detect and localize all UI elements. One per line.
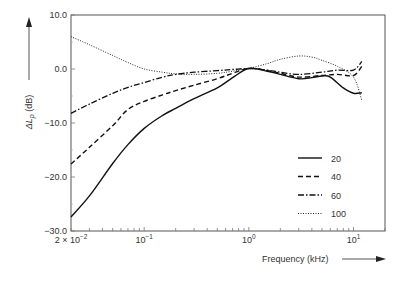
x-axis-title: Frequency (kHz)	[262, 254, 329, 264]
y-label-suffix: (dB)	[24, 95, 34, 115]
legend-label: 60	[331, 191, 341, 201]
x-tick-label: 101	[347, 233, 361, 245]
y-axis: 10.00.0−10.0−20.0−30.0	[44, 10, 75, 236]
x-tick-base: 10	[242, 235, 252, 245]
x-axis-arrow-icon	[376, 256, 386, 262]
x-tick-base: 10	[347, 235, 357, 245]
svg-text:ΔLp (dB): ΔLp (dB)	[24, 95, 36, 130]
x-tick-exponent: −2	[80, 233, 88, 240]
y-tick-label: 10.0	[49, 10, 67, 20]
chart: 10.00.0−10.0−20.0−30.0 2 × 10−210−110010…	[0, 0, 404, 282]
x-axis: 2 × 10−210−1100101	[55, 227, 385, 245]
x-tick-label: 10−1	[135, 233, 153, 245]
series-line-60	[71, 61, 362, 113]
x-tick-label: 100	[242, 233, 256, 245]
x-tick-base: 10	[135, 235, 145, 245]
x-tick-exponent: 0	[252, 233, 256, 240]
legend: 204060100	[298, 154, 346, 220]
legend-label: 40	[331, 172, 341, 182]
y-tick-label: −10.0	[44, 118, 67, 128]
legend-label: 100	[331, 209, 346, 219]
series-group	[71, 37, 362, 217]
legend-label: 20	[331, 154, 341, 164]
y-tick-label: −20.0	[44, 172, 67, 182]
x-tick-base: 2 × 10	[55, 235, 80, 245]
series-line-100	[71, 37, 362, 101]
x-tick-label: 2 × 10−2	[55, 233, 88, 245]
y-tick-label: 0.0	[54, 64, 67, 74]
y-axis-arrow-icon	[26, 17, 32, 27]
y-axis-title: ΔLp (dB)	[24, 95, 36, 130]
y-label-prefix: ΔL	[24, 118, 34, 130]
x-tick-exponent: −1	[145, 233, 153, 240]
series-line-40	[71, 66, 362, 164]
x-tick-exponent: 1	[357, 233, 361, 240]
